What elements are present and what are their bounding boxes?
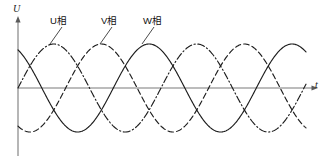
phase-label-u: U相	[50, 16, 67, 26]
phase-u-label-leader-line	[50, 27, 62, 44]
three-phase-waveform-figure: U t U相 V相 W相	[0, 0, 327, 167]
phase-label-v: V相	[101, 16, 117, 26]
axes-group	[15, 16, 318, 156]
y-axis-arrowhead	[15, 16, 20, 23]
phase-v-label-leader-line	[100, 27, 112, 44]
phase-w-label-leader-line	[142, 27, 154, 44]
x-axis-label: t	[315, 80, 318, 90]
phase-label-w: W相	[143, 16, 162, 26]
annotation-leader-lines	[50, 27, 154, 44]
y-axis-label: U	[13, 4, 20, 14]
